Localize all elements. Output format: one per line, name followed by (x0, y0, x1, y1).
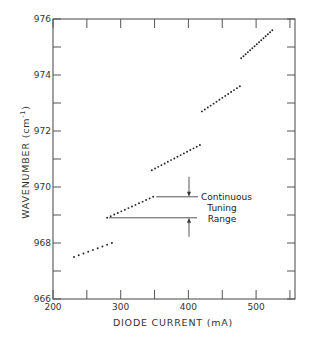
annotation-line-1: Continuous (201, 192, 252, 202)
tuning-range-annotation (109, 177, 198, 237)
y-axis-title: WAVENUMBER (cm-1) (19, 105, 31, 219)
x-axis-title: DIODE CURRENT (mA) (113, 317, 233, 328)
wavenumber-vs-current-chart: 200300400500966968970972974976 DIODE CUR… (0, 0, 311, 340)
annotation-line-3: Range (208, 214, 237, 224)
svg-text:968: 968 (34, 238, 51, 248)
data-points (73, 29, 273, 258)
annotation-line-2: Tuning (206, 203, 236, 213)
svg-text:966: 966 (34, 294, 51, 304)
svg-text:974: 974 (34, 70, 51, 80)
svg-text:500: 500 (248, 302, 265, 312)
svg-text:400: 400 (180, 302, 197, 312)
svg-text:970: 970 (34, 182, 51, 192)
svg-text:300: 300 (112, 302, 129, 312)
svg-text:972: 972 (34, 126, 51, 136)
svg-text:976: 976 (34, 14, 51, 24)
tick-labels: 200300400500966968970972974976 (34, 14, 265, 312)
